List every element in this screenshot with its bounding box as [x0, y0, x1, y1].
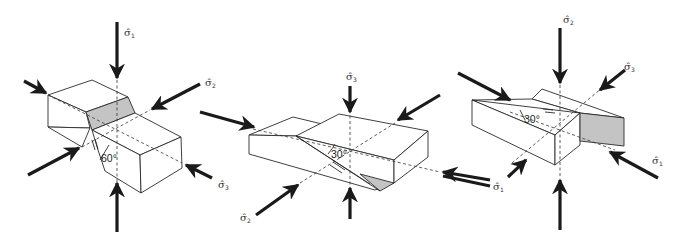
block-front-left-lower: [48, 127, 90, 147]
angle-label: 30°: [331, 148, 347, 160]
svg-text:2: 2: [212, 82, 216, 89]
arrow-sigma3-right: [600, 70, 625, 90]
arrow-sigma2-right: [398, 95, 440, 120]
stress-fault-diagram: 60° σ̂ 1 σ̂ 2 σ̂ 3 30° σ̂ 3 σ̂ 2 σ̂ 1: [0, 0, 679, 237]
svg-text:1: 1: [659, 160, 663, 167]
svg-text:3: 3: [353, 76, 357, 83]
figure-thrust-fault: 30° σ̂ 2 σ̂ 3 σ̂ 1: [443, 14, 663, 230]
angle-label: 60°: [101, 152, 117, 164]
arrow-sigma2-left: [256, 185, 298, 215]
arrow-sigma1-left: [458, 73, 510, 100]
label-sigma2: σ̂: [240, 212, 247, 223]
label-sigma1: σ̂: [652, 155, 659, 166]
label-sigma2: σ̂: [563, 14, 570, 25]
svg-text:1: 1: [500, 186, 504, 193]
label-sigma2: σ̂: [205, 77, 212, 88]
arrow-sigma1-right: [610, 152, 658, 178]
label-sigma3: σ̂: [218, 179, 225, 190]
figure-strike-slip-fault: 30° σ̂ 3 σ̂ 2 σ̂ 1: [200, 71, 504, 224]
arrow-sigma3-left: [508, 160, 526, 177]
arrow-sigma2-right: [152, 84, 200, 109]
fault-plane: [580, 113, 624, 146]
svg-text:3: 3: [225, 184, 229, 191]
arrow-sigma1-left: [200, 112, 254, 127]
label-sigma3: σ̂: [624, 61, 631, 72]
svg-text:3: 3: [631, 66, 635, 73]
label-sigma1: σ̂: [493, 181, 500, 192]
label-sigma3: σ̂: [346, 71, 353, 82]
label-sigma1: σ̂: [124, 27, 131, 38]
angle-label: 30°: [524, 113, 540, 125]
arrow-sigma2-left: [28, 148, 79, 175]
svg-text:2: 2: [570, 19, 574, 26]
figure-normal-fault: 60° σ̂ 1 σ̂ 2 σ̂ 3: [24, 22, 229, 232]
svg-text:2: 2: [247, 217, 251, 224]
arrow-sigma3-right: [186, 165, 212, 178]
arrow-sigma3-left: [24, 81, 46, 93]
svg-text:1: 1: [131, 32, 135, 39]
